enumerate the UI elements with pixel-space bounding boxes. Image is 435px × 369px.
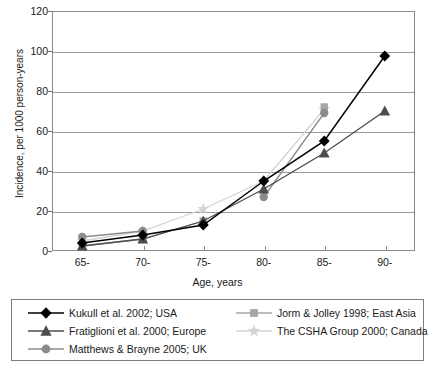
y-tick-label: 100 (22, 46, 48, 56)
legend-label: Fratiglioni et al. 2000; Europe (66, 326, 206, 337)
legend-marker-square (234, 305, 274, 321)
series-layer (52, 11, 415, 251)
x-axis-title: Age, years (0, 276, 435, 288)
y-tick-mark (48, 211, 52, 212)
series-line (82, 111, 385, 246)
legend-label: Kukull et al. 2002; USA (66, 308, 177, 319)
data-point (197, 203, 209, 214)
y-axis-tick-labels: 120100806040200 (22, 0, 48, 292)
legend-column-right: Jorm & Jolley 1998; East AsiaThe CSHA Gr… (234, 304, 428, 340)
legend-item[interactable]: Kukull et al. 2002; USA (26, 304, 207, 322)
legend-marker-star (234, 323, 274, 339)
x-tick-label: 65- (60, 256, 104, 268)
legend-column-left: Kukull et al. 2002; USAFratiglioni et al… (26, 304, 207, 358)
legend-label: Jorm & Jolley 1998; East Asia (274, 308, 416, 319)
y-tick-label: 20 (22, 206, 48, 216)
y-tick-label: 60 (22, 126, 48, 136)
data-point (260, 193, 268, 201)
data-point (198, 220, 209, 231)
legend-marker-triangle (26, 323, 66, 339)
legend-label: The CSHA Group 2000; Canada (274, 326, 428, 337)
data-point (320, 109, 328, 117)
chart-legend: Kukull et al. 2002; USAFratiglioni et al… (11, 299, 424, 361)
x-tick-label: 70- (121, 256, 165, 268)
x-tick-label: 85- (302, 256, 346, 268)
y-tick-mark (48, 171, 52, 172)
x-tick-label: 90- (363, 256, 407, 268)
data-point (319, 148, 330, 158)
legend-label: Matthews & Brayne 2005; UK (66, 344, 207, 355)
x-tick-label: 75- (181, 256, 225, 268)
legend-item[interactable]: Matthews & Brayne 2005; UK (26, 340, 207, 358)
y-tick-mark (48, 51, 52, 52)
y-tick-mark (48, 131, 52, 132)
legend-item[interactable]: Jorm & Jolley 1998; East Asia (234, 304, 428, 322)
chart-root: Incidence, per 1000 person-years 1201008… (0, 0, 435, 369)
y-tick-label: 120 (22, 6, 48, 16)
y-tick-mark (48, 11, 52, 12)
legend-item[interactable]: The CSHA Group 2000; Canada (234, 322, 428, 340)
y-tick-mark (48, 91, 52, 92)
series-diamond (77, 51, 390, 249)
legend-marker-diamond (26, 305, 66, 321)
data-point (319, 136, 330, 147)
y-tick-label: 80 (22, 86, 48, 96)
x-tick-label: 80- (242, 256, 286, 268)
y-tick-label: 0 (22, 246, 48, 256)
y-tick-mark (48, 251, 52, 252)
legend-item[interactable]: Fratiglioni et al. 2000; Europe (26, 322, 207, 340)
legend-marker-circle (26, 341, 66, 357)
series-line (82, 56, 385, 243)
y-tick-label: 40 (22, 166, 48, 176)
series-triangle (77, 106, 390, 251)
data-point (379, 106, 390, 116)
plot-area: Incidence, per 1000 person-years 1201008… (0, 0, 435, 292)
data-point (379, 51, 390, 62)
